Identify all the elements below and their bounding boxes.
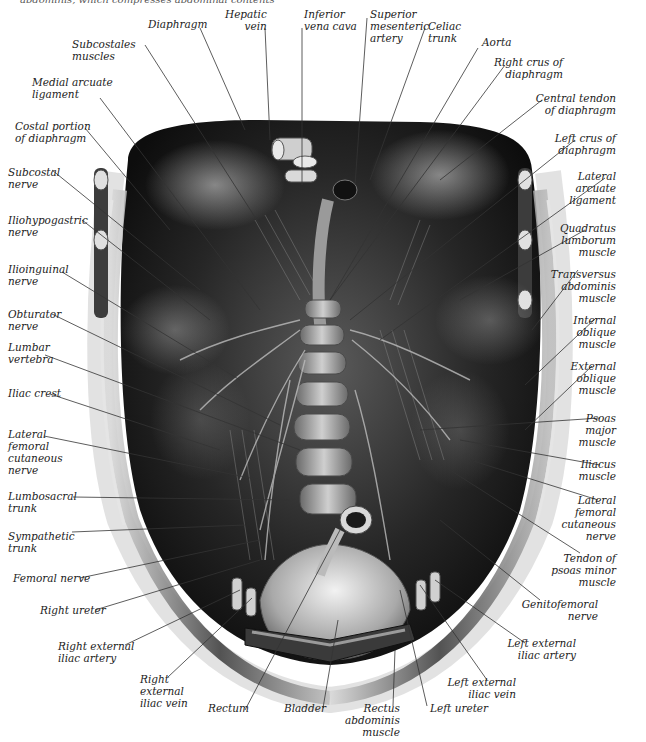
label-iliac-crest: Iliac crest <box>8 387 61 399</box>
label-costal-portion-diaphragm: Costal portion of diaphragm <box>15 120 91 144</box>
label-genitofemoral-nerve: Genitofemoral nerve <box>522 598 598 622</box>
label-obturator-nerve: Obturator nerve <box>8 308 61 332</box>
label-internal-oblique: Internal oblique muscle <box>573 314 616 350</box>
label-external-oblique: External oblique muscle <box>571 360 616 396</box>
label-psoas-major: Psoas major muscle <box>578 412 616 448</box>
label-diaphragm: Diaphragm <box>148 18 207 30</box>
label-bladder: Bladder <box>284 702 326 714</box>
label-hepatic-vein: Hepatic vein <box>225 8 267 32</box>
label-left-external-iliac-artery: Left external iliac artery <box>507 637 576 661</box>
label-inferior-vena-cava: Inferior vena cava <box>304 8 357 32</box>
label-right-crus: Right crus of diaphragm <box>494 56 563 80</box>
label-sympathetic-trunk: Sympathetic trunk <box>8 530 75 554</box>
label-lateral-femoral-cutaneous-nerve-right: Lateral femoral cutaneous nerve <box>561 494 616 542</box>
label-celiac-trunk: Celiac trunk <box>428 20 461 44</box>
label-femoral-nerve: Femoral nerve <box>13 572 90 584</box>
label-central-tendon: Central tendon of diaphragm <box>536 92 616 116</box>
label-subcostales-muscles: Subcostales muscles <box>72 38 136 62</box>
label-lateral-arcuate-ligament: Lateral arcuate ligament <box>569 170 616 206</box>
label-iliohypogastric-nerve: Iliohypogastric nerve <box>8 214 88 238</box>
label-right-external-iliac-artery: Right external iliac artery <box>58 640 134 664</box>
label-iliacus: Iliacus muscle <box>578 458 616 482</box>
label-lumbar-vertebra: Lumbar vertebra <box>8 341 54 365</box>
label-quadratus-lumborum: Quadratus lumborum muscle <box>560 222 616 258</box>
label-left-crus: Left crus of diaphragm <box>555 132 616 156</box>
label-right-ureter: Right ureter <box>40 604 106 616</box>
label-right-external-iliac-vein: Right external iliac vein <box>140 673 188 709</box>
label-aorta: Aorta <box>482 36 511 48</box>
label-medial-arcuate-ligament: Medial arcuate ligament <box>32 76 113 100</box>
label-tendon-psoas-minor: Tendon of psoas minor muscle <box>551 552 616 588</box>
label-left-ureter: Left ureter <box>430 702 488 714</box>
label-rectum: Rectum <box>208 702 249 714</box>
label-lumbosacral-trunk: Lumbosacral trunk <box>8 490 77 514</box>
label-left-external-iliac-vein: Left external iliac vein <box>447 676 516 700</box>
label-lateral-femoral-cutaneous-nerve-left: Lateral femoral cutaneous nerve <box>8 428 63 476</box>
label-rectus-abdominis: Rectus abdominis muscle <box>345 702 400 738</box>
label-subcostal-nerve: Subcostal nerve <box>8 166 60 190</box>
label-ilioinguinal-nerve: Ilioinguinal nerve <box>8 263 69 287</box>
label-superior-mesenteric-artery: Superior mesenteric artery <box>370 8 429 44</box>
label-transversus-abdominis: Transversus abdominis muscle <box>551 268 616 304</box>
